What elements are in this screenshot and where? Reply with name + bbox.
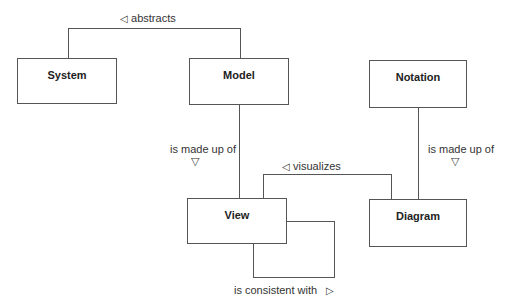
triangle-left-icon: ◁ — [282, 161, 290, 172]
model-view-connector — [239, 105, 240, 198]
diagram-title: Diagram — [370, 210, 466, 222]
notation-title: Notation — [370, 71, 466, 83]
notation-diagram-connector — [418, 108, 419, 199]
visualizes-connector-top — [263, 174, 392, 175]
self-loop-left — [253, 244, 254, 277]
self-loop-top — [287, 221, 334, 222]
view-box[interactable]: View — [187, 198, 287, 244]
consistent-with-label: is consistent with ▷ — [234, 284, 334, 296]
model-box[interactable]: Model — [189, 58, 289, 105]
abstracts-connector-right — [240, 28, 241, 58]
system-box[interactable]: System — [17, 58, 117, 104]
system-title: System — [18, 69, 116, 81]
visualizes-label: ◁ visualizes — [282, 160, 341, 172]
view-title: View — [188, 209, 286, 221]
abstracts-label: ◁ abstracts — [120, 12, 176, 24]
triangle-down-icon: ▽ — [451, 155, 459, 168]
triangle-right-icon: ▷ — [326, 285, 334, 296]
model-made-up-of-label: is made up of — [170, 143, 236, 155]
abstracts-connector-left — [68, 28, 69, 58]
self-loop-bottom — [253, 277, 335, 278]
notation-made-up-of-label: is made up of — [428, 143, 494, 155]
abstracts-connector-top — [68, 28, 240, 29]
notation-box[interactable]: Notation — [369, 60, 467, 108]
visualizes-connector-right — [391, 174, 392, 199]
diagram-box[interactable]: Diagram — [369, 199, 467, 247]
visualizes-connector-left — [263, 174, 264, 198]
model-title: Model — [190, 69, 288, 81]
triangle-left-icon: ◁ — [120, 13, 128, 24]
triangle-down-icon: ▽ — [191, 155, 199, 168]
self-loop-right — [334, 221, 335, 277]
